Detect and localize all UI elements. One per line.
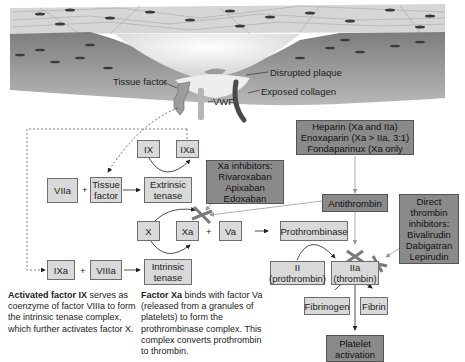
node-iia-thrombin: IIa (thrombin) (331, 261, 379, 285)
drug-rivaroxaban: Rivaroxaban (218, 171, 271, 182)
node-xa: Xa (176, 221, 199, 241)
node-x-label: X (145, 226, 151, 237)
node-prothrombinase: Prothrombinase (280, 221, 348, 241)
dti-heading-3: inhibitors: (409, 218, 450, 229)
drug-heparin: Heparin (Xa and IIa) (312, 121, 398, 132)
node-viia: VIIa (47, 178, 78, 203)
heparin-drugs-box: Heparin (Xa and IIa) Enoxaparin (Xa > II… (296, 120, 414, 155)
node-viia-label: VIIa (54, 185, 71, 196)
node-ixa-bottom: IXa (47, 260, 75, 280)
node-tissue-factor: Tissue factor (90, 177, 122, 203)
drug-edoxaban: Edoxaban (224, 193, 267, 204)
node-platelet-sublabel: activation (335, 349, 375, 360)
plus-sign: + (80, 265, 86, 276)
node-ix: IX (137, 140, 160, 158)
node-viiia-label: VIIIa (96, 265, 116, 276)
dti-heading-2: thrombin (411, 207, 448, 218)
dti-heading-1: Direct (417, 196, 442, 207)
node-ixa-bottom-label: IXa (54, 265, 68, 276)
node-platelet-activation: Platelet activation (326, 335, 384, 362)
node-ix-label: IX (144, 144, 153, 155)
antithrombin-box: Antithrombin (322, 194, 388, 212)
node-iia-label: IIa (350, 262, 361, 273)
node-ixa-top: IXa (176, 140, 199, 158)
node-va-label: Va (225, 226, 236, 237)
node-xa-label: Xa (182, 226, 194, 237)
node-tissue-factor-label: Tissue factor (91, 179, 121, 201)
node-fibrin-label: Fibrin (362, 301, 386, 312)
node-intrinsic-tenase: Intrinsic tenase (144, 259, 192, 285)
node-fibrinogen: Fibrinogen (304, 297, 350, 315)
direct-thrombin-inhibitors-box: Direct thrombin inhibitors: Bivalirudin … (399, 194, 459, 264)
node-platelet-label: Platelet (339, 338, 371, 349)
node-iia-sublabel: (thrombin) (333, 273, 376, 284)
node-ii-sublabel: (prothrombin) (269, 273, 326, 284)
plus-sign: + (206, 226, 212, 237)
drug-fondaparinux: Fondaparinux (Xa only (307, 143, 403, 154)
drug-bivalirudin: Bivalirudin (407, 229, 451, 240)
node-va: Va (219, 221, 242, 241)
xa-inhibitors-heading: Xa inhibitors: (218, 160, 273, 171)
node-viiia: VIIIa (90, 260, 122, 280)
node-x: X (137, 221, 160, 241)
drug-lepirudin: Lepirudin (409, 251, 448, 262)
drug-apixaban: Apixaban (225, 182, 265, 193)
node-ixa-top-label: IXa (180, 144, 194, 155)
note-factor-ix-bold: Activated factor IX (8, 290, 87, 300)
node-extrinsic-tenase-label: Extrinsic tenase (145, 179, 191, 201)
antithrombin-label: Antithrombin (328, 198, 381, 209)
drug-dabigatran: Dabigatran (406, 240, 452, 251)
plus-sign: + (82, 184, 88, 195)
node-fibrin: Fibrin (360, 297, 388, 315)
note-factor-xa: Factor Xa binds with factor Va (released… (141, 290, 269, 357)
node-ii-prothrombin: II (prothrombin) (270, 261, 325, 285)
drug-enoxaparin: Enoxaparin (Xa > IIa, 3:1) (301, 132, 410, 143)
node-fibrinogen-label: Fibrinogen (305, 301, 350, 312)
node-intrinsic-tenase-label: Intrinsic tenase (145, 261, 191, 283)
node-ii-label: II (295, 262, 300, 273)
xa-inhibitors-box: Xa inhibitors: Rivaroxaban Apixaban Edox… (206, 160, 284, 204)
note-factor-xa-bold: Factor Xa (141, 290, 182, 300)
node-extrinsic-tenase: Extrinsic tenase (144, 177, 192, 203)
node-prothrombinase-label: Prothrombinase (280, 226, 347, 237)
note-factor-ix: Activated factor IX serves as coenzyme o… (8, 290, 138, 335)
